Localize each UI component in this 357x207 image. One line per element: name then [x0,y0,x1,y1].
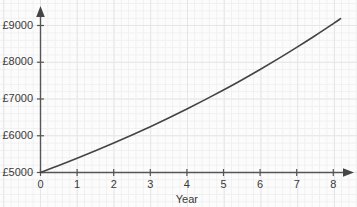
x-axis-title: Year [41,193,334,205]
y-tick-label-wrap: £5000 [0,167,33,178]
y-tick-label-wrap: £6000 [0,130,33,141]
y-axis-arrow-icon [36,6,45,17]
x-tick-label: 3 [140,179,160,190]
line-chart: £5000£6000£7000£8000£9000 012345678 Year [0,0,357,207]
x-tick-label: 7 [287,179,307,190]
x-tick-label: 2 [104,179,124,190]
x-tick-label: 5 [214,179,234,190]
x-tick-label: 8 [323,179,343,190]
y-tick-label: £7000 [0,93,33,104]
y-tick-label: £8000 [0,56,33,67]
axis-ticks [37,26,333,177]
x-axis-arrow-icon [343,168,354,177]
plot-area [0,0,357,207]
series-line-investment-value [41,19,341,173]
x-tick-label: 1 [67,179,87,190]
x-tick-label: 6 [250,179,270,190]
x-tick-label: 4 [177,179,197,190]
y-tick-label-wrap: £9000 [0,20,33,31]
y-tick-label-wrap: £8000 [0,56,33,67]
y-tick-label: £5000 [0,167,33,178]
y-tick-label: £6000 [0,130,33,141]
y-tick-label-wrap: £7000 [0,93,33,104]
x-tick-label: 0 [31,179,51,190]
y-tick-label: £9000 [0,20,33,31]
